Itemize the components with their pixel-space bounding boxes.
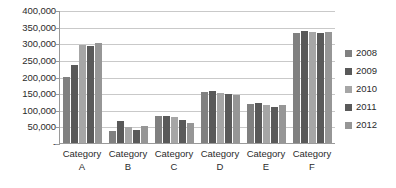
legend-label: 2008 [356, 48, 377, 58]
legend-label: 2011 [356, 102, 376, 112]
x-axis-category-label: CategoryE [243, 148, 289, 173]
legend-label: 2009 [356, 66, 377, 76]
legend-label: 2012 [356, 120, 377, 130]
bar [179, 120, 186, 143]
y-axis-tick-label: 150,000 [0, 89, 56, 99]
category-name: Category [151, 148, 197, 161]
bar [155, 116, 162, 143]
bar [87, 46, 94, 143]
bar [217, 93, 224, 143]
y-axis-tick-label: 100,000 [0, 106, 56, 116]
legend-color-swatch [345, 50, 352, 57]
x-axis-category-label: CategoryD [197, 148, 243, 173]
chart-legend: 20082009201020112012 [345, 44, 395, 134]
bar [109, 131, 116, 143]
legend-color-swatch [345, 86, 352, 93]
y-axis-tick-label: - [0, 139, 56, 149]
y-axis-tick-label: 350,000 [0, 23, 56, 33]
bar [187, 123, 194, 143]
x-axis-category-label: CategoryF [289, 148, 335, 173]
bar [263, 105, 270, 143]
bar [201, 92, 208, 143]
bar [209, 91, 216, 143]
category-letter: B [105, 161, 151, 174]
bar [225, 94, 232, 143]
bar-chart: 400,000350,000300,000250,000200,000150,0… [0, 0, 396, 188]
y-axis-tick-label: 200,000 [0, 73, 56, 83]
bar [117, 121, 124, 143]
legend-label: 2010 [356, 84, 377, 94]
legend-item[interactable]: 2010 [345, 80, 395, 98]
x-axis-category-label: CategoryC [151, 148, 197, 173]
y-axis-tick-label: 400,000 [0, 6, 56, 16]
category-name: Category [105, 148, 151, 161]
legend-item[interactable]: 2008 [345, 44, 395, 62]
bar [271, 107, 278, 143]
bar-group [155, 11, 195, 143]
bar [63, 77, 70, 143]
legend-item[interactable]: 2009 [345, 62, 395, 80]
y-axis-tick-label: 300,000 [0, 40, 56, 50]
bar-group [246, 11, 286, 143]
legend-color-swatch [345, 122, 352, 129]
bar [95, 43, 102, 143]
bar [171, 117, 178, 143]
bar [317, 33, 324, 143]
y-axis-tick-mark [56, 144, 60, 145]
category-name: Category [59, 148, 105, 161]
category-name: Category [243, 148, 289, 161]
legend-color-swatch [345, 68, 352, 75]
plot-area [59, 11, 335, 144]
category-letter: A [59, 161, 105, 174]
bar [325, 32, 332, 143]
category-letter: F [289, 161, 335, 174]
bar-group [292, 11, 332, 143]
x-axis-category-label: CategoryA [59, 148, 105, 173]
bar [133, 130, 140, 143]
category-letter: D [197, 161, 243, 174]
bar [309, 32, 316, 143]
bar [163, 116, 170, 143]
bar-series-layer [60, 11, 335, 143]
y-axis-tick-label: 50,000 [0, 123, 56, 133]
bar [247, 104, 254, 143]
bar-group [63, 11, 103, 143]
bar [301, 31, 308, 143]
y-axis-tick-label: 250,000 [0, 56, 56, 66]
legend-color-swatch [345, 104, 352, 111]
bar [141, 126, 148, 143]
legend-item[interactable]: 2012 [345, 116, 395, 134]
y-axis: 400,000350,000300,000250,000200,000150,0… [0, 11, 56, 144]
bar [79, 45, 86, 143]
bar [125, 127, 132, 143]
bar [255, 103, 262, 143]
category-letter: E [243, 161, 289, 174]
category-name: Category [289, 148, 335, 161]
bar [71, 65, 78, 143]
bar-group [109, 11, 149, 143]
bar [293, 33, 300, 143]
x-axis-category-label: CategoryB [105, 148, 151, 173]
bar-group [200, 11, 240, 143]
bar [279, 105, 286, 143]
legend-item[interactable]: 2011 [345, 98, 395, 116]
category-name: Category [197, 148, 243, 161]
bar [233, 95, 240, 143]
x-axis: CategoryACategoryBCategoryCCategoryDCate… [59, 148, 335, 173]
category-letter: C [151, 161, 197, 174]
